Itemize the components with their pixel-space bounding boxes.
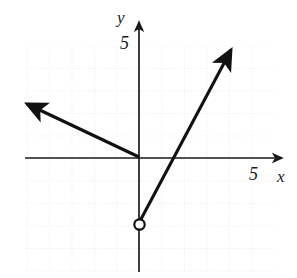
- x-axis-tick-label-5: 5: [249, 165, 258, 183]
- coordinate-plane-svg: [0, 0, 297, 278]
- x-axis-label: x: [277, 168, 285, 185]
- y-axis-tick-label-5: 5: [120, 34, 129, 52]
- open-circle-endpoint: [134, 219, 144, 229]
- grid-lines: [26, 46, 274, 273]
- graph-figure: y x 5 5: [0, 0, 297, 278]
- y-axis-label: y: [117, 9, 125, 26]
